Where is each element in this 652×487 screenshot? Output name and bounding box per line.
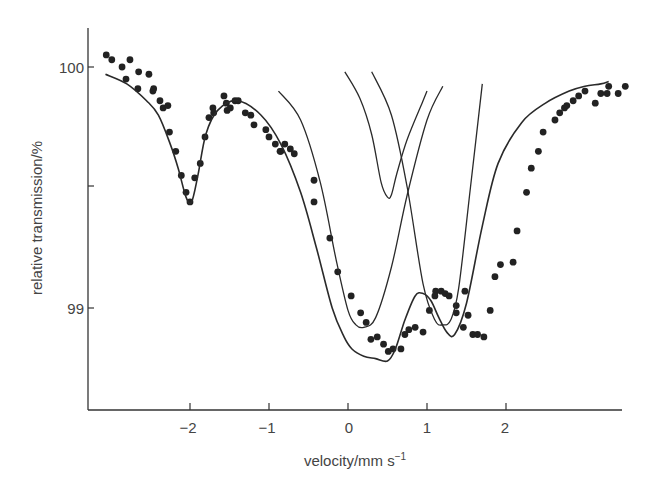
- data-point: [227, 105, 234, 112]
- data-point: [514, 227, 521, 234]
- data-point: [552, 117, 559, 124]
- data-point: [592, 100, 599, 107]
- measured-spectrum-points: [103, 52, 629, 355]
- x-axis-label-text: velocity/mm s: [304, 452, 395, 469]
- y-tick-label-100: 100: [59, 59, 84, 76]
- plot-area: 100 99 −2 −1 0 1 2 velocity/mm s−1 relat…: [0, 0, 652, 487]
- data-point: [420, 329, 427, 336]
- data-point: [497, 261, 504, 268]
- data-point: [398, 346, 405, 353]
- data-point: [615, 90, 622, 97]
- data-point: [474, 331, 481, 338]
- series-layer: [103, 52, 629, 362]
- data-point: [150, 85, 157, 92]
- x-tick-label-0: 0: [345, 419, 353, 436]
- x-tick-label-m1: −1: [258, 419, 275, 436]
- data-point: [460, 324, 467, 331]
- data-point: [582, 88, 589, 95]
- data-point: [412, 324, 419, 331]
- data-point: [251, 121, 258, 128]
- data-point: [492, 273, 499, 280]
- data-point: [146, 71, 153, 78]
- data-point: [487, 307, 494, 314]
- data-point: [575, 93, 582, 100]
- data-point: [563, 102, 570, 109]
- data-point: [368, 336, 375, 343]
- data-point: [127, 56, 134, 63]
- data-point: [272, 141, 279, 148]
- data-point: [103, 52, 110, 59]
- x-axis-label: velocity/mm s−1: [304, 451, 407, 469]
- data-point: [597, 90, 604, 97]
- data-point: [157, 97, 164, 104]
- x-tick-label-1: 1: [423, 419, 431, 436]
- data-point: [262, 126, 269, 133]
- y-tick-label-99: 99: [67, 300, 84, 317]
- data-point: [510, 259, 517, 266]
- data-point: [465, 312, 472, 319]
- data-point: [291, 150, 298, 157]
- component-left-line-curve: [278, 86, 442, 328]
- data-point: [164, 102, 171, 109]
- component-central-sharp-line-curve: [345, 72, 427, 198]
- data-point: [311, 177, 318, 184]
- data-point: [108, 56, 115, 63]
- data-point: [374, 334, 381, 341]
- data-point: [311, 199, 318, 206]
- data-point: [604, 90, 611, 97]
- data-point: [446, 293, 453, 300]
- data-point: [135, 68, 142, 75]
- data-point: [432, 293, 439, 300]
- data-point: [462, 288, 469, 295]
- mossbauer-spectrum-chart: 100 99 −2 −1 0 1 2 velocity/mm s−1 relat…: [0, 0, 652, 487]
- data-point: [363, 319, 370, 326]
- data-point: [480, 334, 487, 341]
- data-point: [357, 309, 364, 316]
- y-axis-label: relative transmission/%: [28, 141, 45, 295]
- data-point: [528, 165, 535, 172]
- data-point: [119, 64, 126, 71]
- x-tick-label-2: 2: [501, 419, 509, 436]
- x-axis-label-superscript: −1: [395, 451, 407, 462]
- data-point: [266, 133, 273, 140]
- data-point: [605, 83, 612, 90]
- data-point: [405, 326, 412, 333]
- total-fit-curve: [105, 74, 608, 361]
- data-point: [247, 112, 254, 119]
- data-point: [523, 189, 530, 196]
- data-point: [622, 83, 629, 90]
- data-point: [540, 129, 547, 136]
- data-point: [570, 97, 577, 104]
- data-point: [348, 293, 355, 300]
- data-point: [221, 93, 228, 100]
- data-point: [535, 148, 542, 155]
- data-point: [380, 341, 387, 348]
- x-tick-label-m2: −2: [179, 419, 196, 436]
